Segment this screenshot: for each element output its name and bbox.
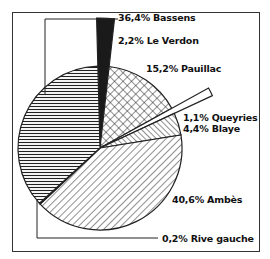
label-queyries: 1,1% Queyries [183, 112, 258, 123]
label-bassens: 36,4% Bassens [118, 12, 196, 23]
label-le-verdon: 2,2% Le Verdon [118, 35, 199, 46]
label-pauillac: 15,2% Pauillac [146, 63, 221, 74]
label-ambes: 40,6% Ambès [172, 194, 242, 205]
label-rive-gauche: 0,2% Rive gauche [162, 233, 254, 244]
label-blaye: 4,4% Blaye [183, 123, 240, 134]
